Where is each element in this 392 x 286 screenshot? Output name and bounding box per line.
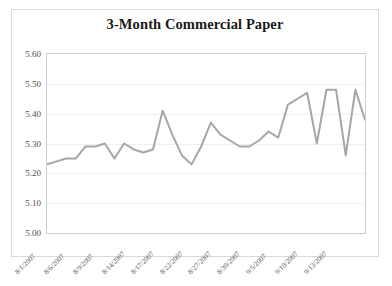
chart-title: 3-Month Commercial Paper bbox=[12, 16, 378, 33]
x-tick-label: 8/22/2007 bbox=[158, 250, 184, 276]
x-tick-label: 8/30/2007 bbox=[216, 250, 242, 276]
y-axis: 5.605.505.405.305.205.105.00 bbox=[12, 53, 44, 234]
y-tick-label: 5.40 bbox=[25, 109, 41, 119]
x-tick-label: 8/1/2007 bbox=[13, 252, 37, 276]
y-tick-label: 5.50 bbox=[25, 79, 41, 89]
x-tick-label: 9/10/2007 bbox=[274, 250, 300, 276]
x-tick-label: 8/6/2007 bbox=[42, 252, 66, 276]
x-tick-label: 9/13/2007 bbox=[303, 250, 329, 276]
x-tick-label: 9/5/2007 bbox=[245, 252, 269, 276]
plot-area bbox=[46, 53, 366, 234]
chart-figure: 3-Month Commercial Paper 5.605.505.405.3… bbox=[11, 9, 379, 257]
x-tick-label: 8/27/2007 bbox=[187, 250, 213, 276]
y-tick-label: 5.20 bbox=[25, 168, 41, 178]
x-axis: 8/1/20078/6/20078/9/20078/14/20078/17/20… bbox=[46, 236, 366, 280]
y-tick-label: 5.00 bbox=[25, 228, 41, 238]
x-tick-label: 8/14/2007 bbox=[100, 250, 126, 276]
y-tick-label: 5.10 bbox=[25, 198, 41, 208]
x-tick-label: 8/9/2007 bbox=[71, 252, 95, 276]
y-tick-label: 5.30 bbox=[25, 139, 41, 149]
y-tick-label: 5.60 bbox=[25, 49, 41, 59]
series-line bbox=[47, 54, 365, 233]
x-tick-label: 8/17/2007 bbox=[129, 250, 155, 276]
